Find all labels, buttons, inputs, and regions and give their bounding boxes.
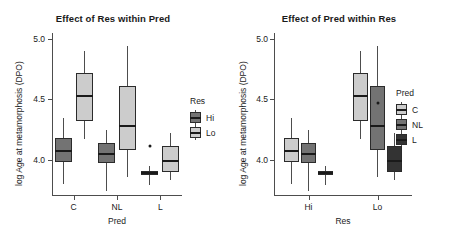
y-axis-title-right: log Age at metamorphosis (DPO) (238, 61, 248, 186)
median-NL-Hi (301, 153, 316, 155)
y-tick-label-5.0: 5.0 (256, 34, 268, 44)
median-C-Lo (353, 95, 368, 97)
outlier-Hi-L-0 (148, 145, 151, 148)
plot-area-right: Res 4.04.55.0HiLo (274, 33, 412, 196)
legend-swatch-icon-Hi (190, 112, 201, 123)
y-tick-label-4.5: 4.5 (256, 94, 268, 104)
legend-title-res: Res (190, 96, 215, 106)
x-tick-label-Hi: Hi (304, 202, 312, 212)
box-NL-Lo (370, 86, 385, 150)
x-tick-label-Lo: Lo (373, 202, 382, 212)
boxplot-figure: Effect of Res within Pred log Age at met… (0, 0, 452, 242)
legend-item-NL[interactable]: NL (396, 118, 423, 131)
y-tick-5.0 (270, 39, 274, 40)
median-Hi-C (55, 150, 72, 152)
median-Lo-L (162, 160, 179, 162)
outlier-NL-Lo-0 (376, 102, 379, 105)
legend-item-Hi[interactable]: Hi (190, 111, 215, 124)
box-Lo-NL (119, 86, 136, 150)
y-tick-label-5.0: 5.0 (33, 34, 45, 44)
panel-title-left: Effect of Res within Pred (0, 13, 226, 24)
y-axis-line-right (274, 33, 275, 196)
legend-label-C: C (412, 105, 418, 115)
plot-area-left: Pred 4.04.55.0CNLL (52, 33, 182, 196)
y-tick-4.0 (48, 160, 52, 161)
x-axis-title-right: Res (335, 216, 350, 226)
legend-swatch-icon-Lo (190, 127, 201, 138)
legend-label-NL: NL (412, 120, 423, 130)
x-tick-L (160, 196, 161, 200)
median-Lo-C (76, 95, 93, 97)
y-axis-title-left: log Age at metamorphosis (DPO) (14, 61, 24, 186)
x-tick-Lo (378, 196, 379, 200)
median-Hi-L (141, 172, 158, 174)
x-tick-label-L: L (158, 202, 163, 212)
median-Hi-NL (98, 153, 115, 155)
panel-title-right: Effect of Pred within Res (226, 13, 452, 24)
median-Lo-NL (119, 125, 136, 127)
x-axis-title-left: Pred (108, 216, 126, 226)
legend-swatch-icon-NL (396, 119, 407, 130)
y-tick-label-4.0: 4.0 (256, 155, 268, 165)
median-L-Hi (318, 172, 333, 174)
legend-swatch-icon-L (396, 134, 407, 145)
legend-label-Lo: Lo (206, 128, 215, 138)
x-tick-C (74, 196, 75, 200)
legend-res: Res HiLo (190, 96, 215, 141)
legend-title-pred: Pred (396, 88, 423, 98)
y-tick-4.5 (48, 99, 52, 100)
panel-effect-of-res-within-pred: Effect of Res within Pred log Age at met… (0, 0, 226, 242)
legend-item-L[interactable]: L (396, 133, 423, 146)
x-tick-label-C: C (71, 202, 77, 212)
box-C-Lo (353, 73, 368, 121)
median-L-Lo (387, 160, 402, 162)
y-tick-4.0 (270, 160, 274, 161)
legend-label-Hi: Hi (206, 113, 214, 123)
legend-pred: Pred CNLL (396, 88, 423, 148)
x-tick-label-NL: NL (112, 202, 123, 212)
whisker-Hi-L (149, 166, 150, 185)
legend-item-C[interactable]: C (396, 103, 423, 116)
x-axis-line-right (274, 195, 412, 196)
legend-label-L: L (412, 135, 417, 145)
y-axis-line-left (52, 33, 53, 196)
y-tick-label-4.0: 4.0 (33, 155, 45, 165)
median-C-Hi (284, 150, 299, 152)
y-tick-label-4.5: 4.5 (33, 94, 45, 104)
box-Lo-C (76, 73, 93, 121)
x-tick-NL (117, 196, 118, 200)
y-tick-5.0 (48, 39, 52, 40)
median-NL-Lo (370, 125, 385, 127)
legend-item-Lo[interactable]: Lo (190, 126, 215, 139)
legend-swatch-icon-C (396, 104, 407, 115)
panel-effect-of-pred-within-res: Effect of Pred within Res log Age at met… (226, 0, 452, 242)
y-tick-4.5 (270, 99, 274, 100)
x-tick-Hi (309, 196, 310, 200)
whisker-L-Hi (325, 166, 326, 185)
